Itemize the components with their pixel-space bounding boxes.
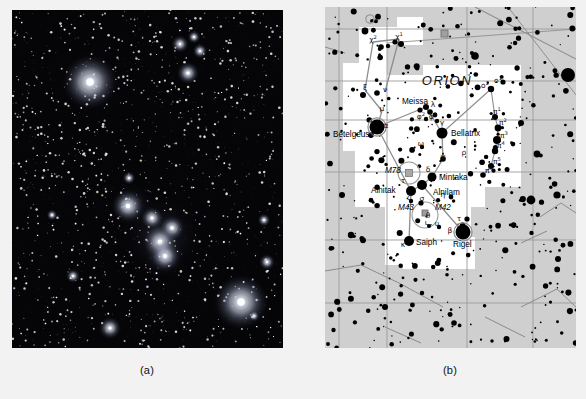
chart-field-star xyxy=(567,35,569,37)
chart-field-star xyxy=(335,16,336,17)
chart-field-star xyxy=(470,324,472,326)
chart-field-star xyxy=(470,11,473,14)
chart-field-star xyxy=(521,99,523,101)
chart-field-star xyxy=(549,282,552,285)
chart-field-star xyxy=(410,117,414,121)
chart-field-star xyxy=(457,111,460,114)
star-bellatrix xyxy=(437,128,448,139)
chart-field-star xyxy=(398,158,404,164)
chart-field-star xyxy=(553,238,557,242)
chart-field-star xyxy=(412,131,415,134)
chart-field-star xyxy=(529,101,530,102)
bayer-label-19: ι xyxy=(425,218,428,227)
chart-field-star xyxy=(336,30,339,33)
chart-field-star xyxy=(355,233,356,234)
chart-field-star xyxy=(402,72,405,75)
chart-field-star xyxy=(561,290,564,293)
chart-field-star xyxy=(356,29,358,31)
chart-field-star xyxy=(472,88,473,89)
chart-field-star xyxy=(369,198,374,203)
chart-orion-star-12 xyxy=(435,119,439,123)
chart-field-star xyxy=(451,278,453,280)
star-name-label-alnilam: Alnilam xyxy=(433,188,460,197)
chart-field-star xyxy=(495,270,497,272)
chart-field-star xyxy=(356,89,358,91)
chart-field-star xyxy=(565,290,571,296)
chart-field-star xyxy=(536,212,540,216)
chart-field-star xyxy=(376,327,380,331)
bayer-label-10: ω xyxy=(418,139,424,148)
chart-field-star xyxy=(480,184,482,186)
chart-field-star xyxy=(542,75,545,78)
chart-field-star xyxy=(570,205,571,206)
chart-field-star xyxy=(498,163,501,166)
chart-field-star xyxy=(428,27,433,32)
chart-field-star xyxy=(475,168,476,169)
chart-field-star xyxy=(573,273,575,275)
chart-field-star xyxy=(520,116,521,117)
chart-field-star xyxy=(390,321,393,324)
chart-field-star xyxy=(442,58,444,60)
chart-field-star xyxy=(414,63,420,69)
chart-field-star xyxy=(431,296,434,299)
chart-field-star xyxy=(572,139,575,142)
bayer-label-5: λ xyxy=(431,100,436,109)
bayer-label-23: κ xyxy=(401,240,406,249)
chart-field-star xyxy=(348,296,354,302)
chart-field-star xyxy=(366,164,370,168)
chart-bright-field-star-1 xyxy=(527,196,536,205)
chart-field-star xyxy=(468,171,473,176)
chart-field-star xyxy=(543,244,544,245)
bayer-label-6: α xyxy=(384,121,389,130)
chart-orion-star-18 xyxy=(386,44,390,48)
chart-field-star xyxy=(383,272,384,273)
chart-field-star xyxy=(413,278,417,282)
chart-field-star xyxy=(379,83,382,86)
chart-field-star xyxy=(407,337,409,339)
chart-field-star xyxy=(351,88,355,92)
chart-bright-field-star-6 xyxy=(518,120,524,126)
bayer-label-16: σ xyxy=(420,194,425,203)
chart-field-star xyxy=(473,250,475,252)
chart-field-star xyxy=(408,309,411,312)
star-name-label-betelgeuse: Betelgeuse xyxy=(333,130,374,139)
chart-field-star xyxy=(558,83,560,85)
chart-field-star xyxy=(430,54,433,57)
chart-field-star xyxy=(398,147,402,151)
chart-field-star xyxy=(414,126,420,132)
chart-field-star xyxy=(343,185,344,186)
chart-field-star xyxy=(530,214,533,217)
chart-field-star xyxy=(534,327,536,329)
chart-orion-star-0 xyxy=(488,86,494,92)
chart-field-star xyxy=(439,146,442,149)
chart-bright-field-star-3 xyxy=(348,232,354,238)
chart-field-star xyxy=(407,71,409,73)
chart-field-star xyxy=(562,195,565,198)
chart-field-star xyxy=(514,283,517,286)
chart-field-star xyxy=(545,304,547,306)
chart-orion-star-14 xyxy=(360,92,366,98)
chart-field-star xyxy=(505,167,510,172)
chart-field-star xyxy=(567,308,573,314)
chart-field-star xyxy=(451,49,454,52)
chart-field-star xyxy=(393,196,395,198)
chart-field-star xyxy=(450,308,453,311)
chart-field-star xyxy=(484,155,488,159)
chart-field-star xyxy=(340,217,342,219)
chart-field-star xyxy=(420,40,422,42)
bayer-label-4: μ xyxy=(380,104,385,113)
chart-field-star xyxy=(552,134,555,137)
chart-field-star xyxy=(375,14,381,20)
chart-field-star xyxy=(560,331,564,335)
chart-field-star xyxy=(333,86,337,90)
chart-field-star xyxy=(552,68,557,73)
chart-field-star xyxy=(446,268,449,271)
chart-field-star xyxy=(534,340,537,343)
chart-bright-field-star-5 xyxy=(534,151,541,158)
chart-field-star xyxy=(382,156,384,158)
chart-field-star xyxy=(557,283,559,285)
chart-field-star xyxy=(462,58,464,60)
chart-field-star xyxy=(504,340,506,342)
chart-field-star xyxy=(467,32,470,35)
chart-field-star xyxy=(519,186,521,188)
